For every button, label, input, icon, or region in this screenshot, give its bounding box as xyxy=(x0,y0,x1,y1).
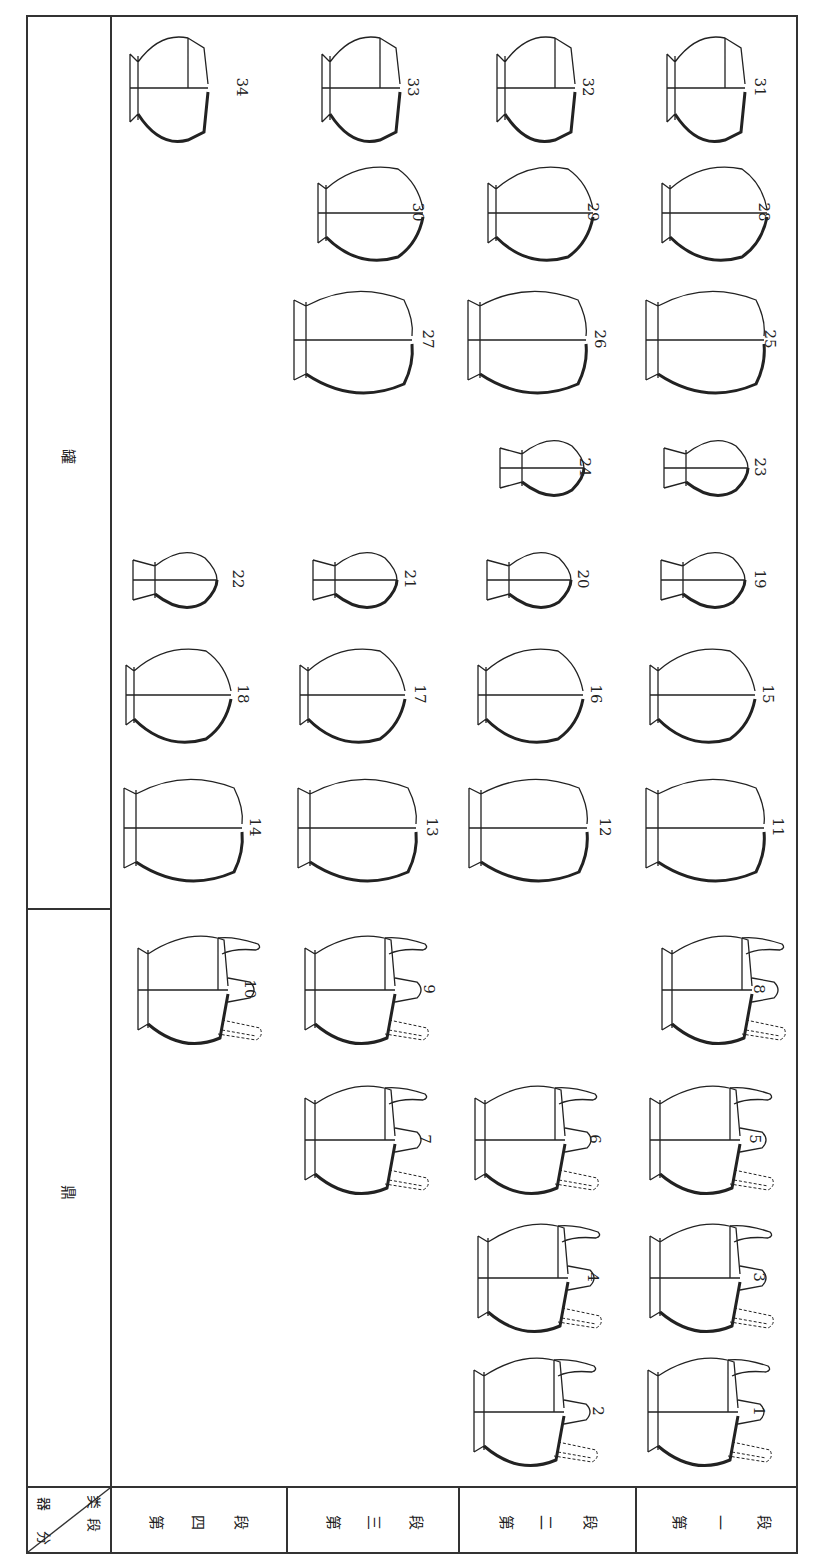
vessel-number-17: 17 xyxy=(411,684,429,703)
vessel-number-6: 6 xyxy=(586,1134,604,1144)
vessel-7 xyxy=(305,1086,428,1193)
vessel-15 xyxy=(650,649,755,742)
vessel-number-13: 13 xyxy=(423,817,441,836)
vessel-number-33: 33 xyxy=(404,77,422,96)
vessel-number-16: 16 xyxy=(587,684,605,703)
vessel-number-8: 8 xyxy=(750,984,768,994)
vessel-12 xyxy=(469,779,587,881)
vessel-32 xyxy=(497,37,575,142)
vessel-number-20: 20 xyxy=(574,569,592,588)
vessel-number-23: 23 xyxy=(751,457,769,476)
vessel-26 xyxy=(468,291,586,393)
vessel-number-12: 12 xyxy=(596,817,614,836)
vessel-number-4: 4 xyxy=(584,1272,602,1282)
vessel-number-31: 31 xyxy=(751,77,769,96)
vessel-24 xyxy=(500,441,584,496)
vessel-number-7: 7 xyxy=(416,1134,434,1144)
vessel-6 xyxy=(475,1086,598,1193)
vessel-18 xyxy=(126,649,231,742)
vessel-number-14: 14 xyxy=(246,817,264,836)
vessel-number-19: 19 xyxy=(751,569,769,588)
vessel-number-29: 29 xyxy=(584,202,602,221)
vessel-number-11: 11 xyxy=(769,817,787,836)
vessel-drawings xyxy=(0,0,817,1568)
vessel-number-26: 26 xyxy=(591,329,609,348)
vessel-16 xyxy=(478,649,583,742)
vessel-11 xyxy=(646,779,764,881)
vessel-29 xyxy=(488,167,593,260)
vessel-2 xyxy=(474,1358,597,1465)
vessel-9 xyxy=(305,936,428,1043)
vessel-number-30: 30 xyxy=(409,202,427,221)
vessel-number-5: 5 xyxy=(746,1134,764,1144)
vessel-14 xyxy=(124,779,242,881)
vessel-number-32: 32 xyxy=(579,77,597,96)
vessel-23 xyxy=(664,441,748,496)
vessel-number-1: 1 xyxy=(750,1406,768,1416)
vessel-33 xyxy=(322,37,400,142)
vessel-number-24: 24 xyxy=(576,457,594,476)
vessel-number-21: 21 xyxy=(401,569,419,588)
vessel-number-27: 27 xyxy=(419,329,437,348)
vessel-number-15: 15 xyxy=(759,684,777,703)
vessel-30 xyxy=(318,167,423,260)
vessel-13 xyxy=(298,779,416,881)
vessel-number-2: 2 xyxy=(589,1406,607,1416)
vessel-31 xyxy=(667,37,745,142)
vessel-20 xyxy=(487,553,571,608)
vessel-21 xyxy=(313,553,397,608)
vessel-25 xyxy=(646,291,764,393)
vessel-number-25: 25 xyxy=(761,329,779,348)
vessel-27 xyxy=(294,291,412,393)
vessel-number-9: 9 xyxy=(420,984,438,994)
vessel-34 xyxy=(130,37,208,142)
vessel-28 xyxy=(662,167,767,260)
vessel-number-22: 22 xyxy=(229,569,247,588)
vessel-number-10: 10 xyxy=(241,979,259,998)
vessel-22 xyxy=(133,553,217,608)
vessel-number-34: 34 xyxy=(233,77,251,96)
vessel-number-3: 3 xyxy=(750,1272,768,1282)
vessel-number-18: 18 xyxy=(234,684,252,703)
vessel-19 xyxy=(661,553,745,608)
vessel-17 xyxy=(300,649,405,742)
vessel-number-28: 28 xyxy=(755,202,773,221)
